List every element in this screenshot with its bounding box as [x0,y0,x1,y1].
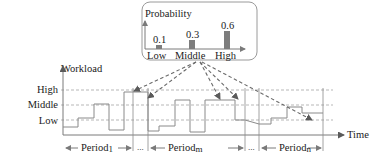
x-axis-label: Time [347,129,369,140]
workload-probability-diagram: Probability 0.1 0.3 0.6 Low Middle High … [0,0,390,161]
mapping-arrows [134,62,312,120]
periodm-label: Periodm [168,142,202,154]
level-high: High [37,84,59,95]
bar-high [224,31,230,49]
arrow-to-periodm-start [148,62,196,98]
periodn-label: Periodn [279,142,311,154]
bar-high-value: 0.6 [221,20,234,31]
bar-middle-label: Middle [175,50,206,61]
level-middle: Middle [28,99,59,110]
level-low: Low [39,115,59,126]
bar-middle [189,40,195,49]
workload-waveform [63,92,323,132]
bar-middle-value: 0.3 [186,29,199,40]
arrow-to-periodn [202,62,312,120]
y-axis-label: Workload [61,63,103,74]
ellipsis-2: ... [248,142,255,152]
arrow-to-periodm-mid [200,62,220,99]
period1-label: Period1 [81,142,113,154]
probability-title: Probability [145,8,192,19]
ellipsis-1: ... [137,142,144,152]
bar-low-label: Low [147,50,167,61]
bar-low [156,45,162,49]
probability-box: Probability 0.1 0.3 0.6 Low Middle High [142,2,257,61]
arrow-to-periodm-end [200,62,238,99]
workload-chart: Workload High Middle Low Time Period1 ..… [28,63,369,154]
bar-low-value: 0.1 [153,34,166,45]
bar-high-label: High [215,50,237,61]
arrow-to-period1-end [134,62,196,91]
